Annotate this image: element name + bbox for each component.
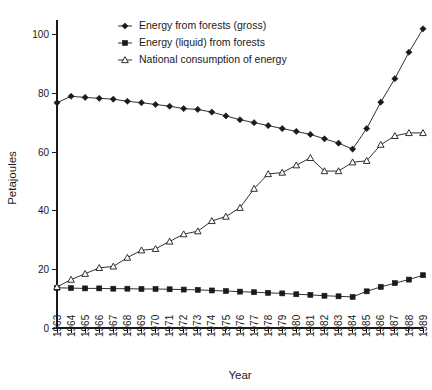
data-point-1-6 [138, 100, 144, 106]
data-point-1-19 [321, 136, 327, 142]
y-axis: 020406080100 [32, 20, 57, 334]
x-tick-label: 1983 [333, 314, 344, 337]
data-point-2-4 [111, 286, 116, 291]
data-point-1-11 [209, 109, 215, 115]
data-point-2-14 [252, 290, 257, 295]
legend-label-1: Energy from forests (gross) [139, 19, 266, 31]
x-tick-label: 1963 [52, 314, 63, 337]
data-point-1-4 [110, 96, 116, 102]
data-point-1-3 [96, 95, 102, 101]
data-point-1-8 [167, 103, 173, 109]
data-point-1-10 [195, 106, 201, 112]
data-point-3-8 [166, 238, 173, 244]
data-point-1-21 [350, 146, 356, 152]
series-3 [54, 130, 427, 290]
data-point-2-2 [83, 286, 88, 291]
data-point-2-25 [406, 277, 411, 282]
y-tick-label: 100 [32, 29, 49, 40]
x-tick-label: 1976 [235, 314, 246, 337]
data-point-2-23 [378, 284, 383, 289]
data-point-2-26 [421, 273, 426, 278]
data-point-2-18 [308, 292, 313, 297]
data-point-1-20 [335, 140, 341, 146]
legend-label-2: Energy (liquid) from forests [139, 36, 265, 48]
x-tick-label: 1988 [404, 314, 415, 337]
line-chart: Energy from forests (gross)Energy (liqui… [0, 0, 432, 390]
data-point-3-17 [293, 162, 300, 168]
data-point-2-11 [209, 288, 214, 293]
x-tick-label: 1977 [249, 314, 260, 337]
data-point-2-19 [322, 293, 327, 298]
data-point-1-23 [378, 99, 384, 105]
data-point-1-12 [223, 113, 229, 119]
data-point-1-2 [82, 94, 88, 100]
data-point-2-8 [167, 287, 172, 292]
data-point-1-15 [265, 123, 271, 129]
x-tick-label: 1975 [221, 314, 232, 337]
x-tick-label: 1965 [80, 314, 91, 337]
data-point-1-9 [181, 105, 187, 111]
x-tick-label: 1981 [305, 314, 316, 337]
legend: Energy from forests (gross)Energy (liqui… [118, 19, 287, 65]
data-point-1-26 [420, 26, 426, 32]
data-point-legend-1 [122, 23, 128, 29]
x-tick-label: 1974 [206, 314, 217, 337]
x-axis-title: Year [228, 369, 251, 381]
x-tick-label: 1980 [291, 314, 302, 337]
data-point-1-14 [251, 120, 257, 126]
x-tick-label: 1968 [122, 314, 133, 337]
x-tick-label: 1985 [361, 314, 372, 337]
data-point-2-15 [266, 290, 271, 295]
data-point-2-1 [69, 286, 74, 291]
x-tick-label: 1987 [389, 314, 400, 337]
data-point-2-24 [392, 281, 397, 286]
series-2 [55, 273, 426, 300]
y-tick-label: 0 [43, 323, 49, 334]
data-point-1-22 [364, 125, 370, 131]
x-tick-label: 1970 [150, 314, 161, 337]
plot-series [54, 26, 427, 300]
data-point-1-17 [293, 128, 299, 134]
data-point-2-12 [223, 289, 228, 294]
x-tick-label: 1989 [418, 314, 429, 337]
x-tick-label: 1964 [66, 314, 77, 337]
data-point-3-23 [377, 141, 384, 147]
data-point-3-4 [110, 263, 117, 269]
data-point-2-13 [238, 289, 243, 294]
x-axis: 1963196419651966196719681969197019711972… [52, 314, 429, 337]
data-point-3-18 [307, 155, 314, 161]
x-tick-label: 1967 [108, 314, 119, 337]
data-point-2-3 [97, 286, 102, 291]
data-point-1-18 [307, 131, 313, 137]
x-tick-label: 1973 [192, 314, 203, 337]
data-point-3-5 [124, 254, 131, 260]
data-point-2-6 [139, 286, 144, 291]
data-point-1-0 [54, 100, 60, 106]
y-tick-label: 40 [38, 205, 50, 216]
x-tick-label: 1972 [178, 314, 189, 337]
legend-item-2: Energy (liquid) from forests [118, 36, 265, 48]
x-tick-label: 1971 [164, 314, 175, 337]
x-tick-label: 1966 [94, 314, 105, 337]
y-tick-label: 80 [38, 88, 50, 99]
data-point-2-5 [125, 286, 130, 291]
x-tick-label: 1978 [263, 314, 274, 337]
data-point-2-16 [280, 291, 285, 296]
data-point-1-1 [68, 93, 74, 99]
data-point-2-21 [350, 294, 355, 299]
y-tick-label: 60 [38, 147, 50, 158]
data-point-2-10 [195, 287, 200, 292]
data-point-3-10 [194, 228, 201, 234]
data-point-1-13 [237, 117, 243, 123]
x-tick-label: 1986 [375, 314, 386, 337]
data-point-2-7 [153, 286, 158, 291]
data-point-3-16 [279, 169, 286, 175]
x-tick-label: 1969 [136, 314, 147, 337]
data-point-3-1 [68, 276, 75, 282]
data-point-1-24 [392, 76, 398, 82]
data-point-3-2 [82, 270, 89, 276]
data-point-2-17 [294, 292, 299, 297]
data-point-3-7 [152, 246, 159, 252]
data-point-1-16 [279, 125, 285, 131]
x-tick-label: 1979 [277, 314, 288, 337]
